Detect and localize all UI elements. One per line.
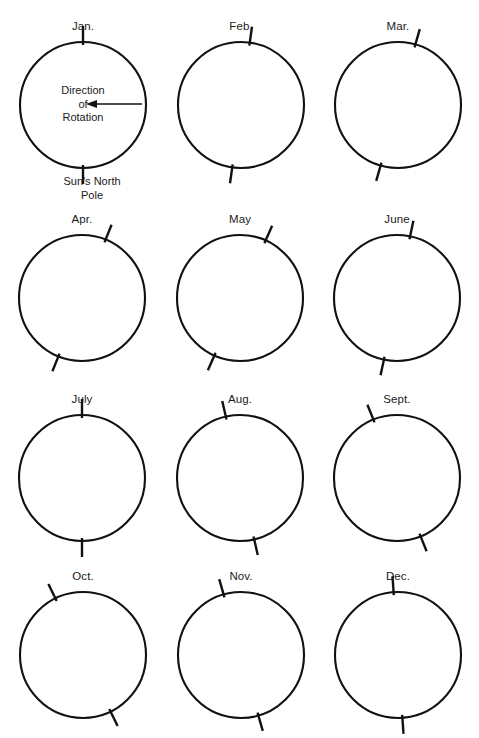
solar-disc xyxy=(317,393,477,573)
sun-circle xyxy=(19,235,145,361)
north-pole-axis-tick xyxy=(48,584,56,601)
sun-circle xyxy=(178,592,304,718)
month-panel: Mar. xyxy=(318,20,478,200)
solar-disc xyxy=(2,213,162,393)
left-arrow-icon xyxy=(86,98,142,110)
sun-circle xyxy=(20,592,146,718)
solar-disc xyxy=(3,570,163,738)
sun-circle xyxy=(19,415,145,541)
suns-north-pole-label: Sun's North Pole xyxy=(37,175,147,202)
month-panel: Oct. xyxy=(3,570,163,738)
solar-disc xyxy=(161,20,321,200)
north-pole-axis-tick xyxy=(392,576,393,595)
rotation-label-line-1: Direction xyxy=(46,84,120,98)
solar-disc xyxy=(318,570,478,738)
rotation-label-line-3: Rotation xyxy=(46,111,120,125)
solar-disc xyxy=(160,393,320,573)
south-pole-axis-tick xyxy=(109,709,117,726)
month-panel: Aug. xyxy=(160,393,320,573)
sun-circle xyxy=(335,592,461,718)
month-panel: Apr. xyxy=(2,213,162,393)
month-panel: Nov. xyxy=(161,570,321,738)
month-panel: Dec. xyxy=(318,570,478,738)
sun-circle xyxy=(177,235,303,361)
solar-disc xyxy=(161,570,321,738)
south-pole-axis-tick xyxy=(402,715,403,734)
month-panel: July xyxy=(2,393,162,573)
month-panel: May xyxy=(160,213,320,393)
solar-disc xyxy=(317,213,477,393)
pole-label-line-1: Sun's North xyxy=(37,175,147,189)
month-panel: Sept. xyxy=(317,393,477,573)
solar-disc xyxy=(160,213,320,393)
sun-circle xyxy=(177,415,303,541)
solar-disc xyxy=(318,20,478,200)
sun-circle xyxy=(334,415,460,541)
sun-circle xyxy=(178,42,304,168)
sun-circle xyxy=(334,235,460,361)
month-panel: Feb. xyxy=(161,20,321,200)
pole-label-line-2: Pole xyxy=(37,189,147,203)
month-panel: June xyxy=(317,213,477,393)
solar-disc xyxy=(2,393,162,573)
sun-circle xyxy=(335,42,461,168)
